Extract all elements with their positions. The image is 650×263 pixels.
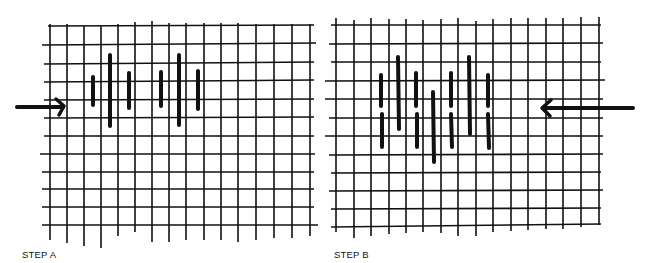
step-a-panel: STEP A (0, 0, 325, 263)
step-b-panel: STEP B (325, 0, 650, 263)
step-a-grid (0, 0, 325, 263)
step-b-label: STEP B (334, 249, 369, 260)
arrow-left-icon (542, 100, 633, 116)
step-b-grid (325, 0, 650, 263)
stitch (488, 114, 489, 148)
stitch (469, 57, 470, 134)
step-a-label: STEP A (22, 249, 56, 260)
stitch (451, 114, 452, 147)
stitch (398, 57, 399, 129)
arrow-right-icon (17, 99, 64, 115)
stitches (93, 55, 198, 126)
stitches (381, 57, 489, 162)
stitch (433, 92, 434, 162)
